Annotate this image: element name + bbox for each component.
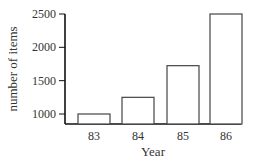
- x-tick-label: 86: [220, 129, 232, 143]
- bar-84: [122, 97, 154, 124]
- y-tick-label: 1000: [32, 107, 56, 121]
- y-tick-label: 1500: [32, 74, 56, 88]
- y-axis: 1000150020002500: [32, 7, 65, 124]
- x-axis-title: Year: [141, 144, 166, 159]
- y-tick-label: 2500: [32, 7, 56, 21]
- x-tick-label: 85: [177, 129, 189, 143]
- bar-83: [78, 114, 110, 124]
- bars: [78, 14, 242, 124]
- bar-86: [210, 14, 242, 124]
- y-axis-title: number of items: [5, 26, 20, 111]
- bar-chart: 1000150020002500 83848586 Year number of…: [0, 0, 255, 165]
- x-tick-label: 84: [132, 129, 144, 143]
- bar-85: [167, 66, 199, 124]
- y-tick-label: 2000: [32, 40, 56, 54]
- x-tick-labels: 83848586: [88, 129, 232, 143]
- x-tick-label: 83: [88, 129, 100, 143]
